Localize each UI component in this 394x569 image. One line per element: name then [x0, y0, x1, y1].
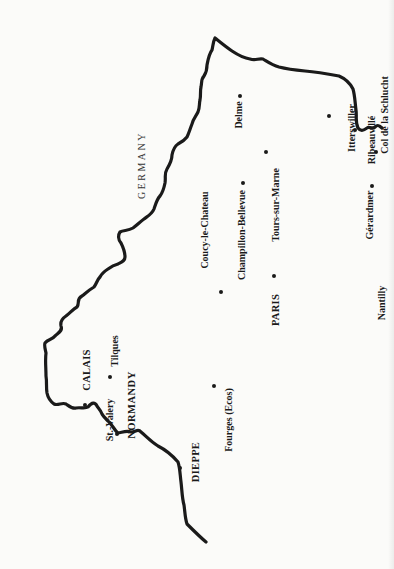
place-label-gerardmer: Gérardmer [365, 191, 375, 240]
place-label-fourges: Fourges (Ecos) [224, 388, 234, 452]
place-dot-coucy-le-chateau [219, 290, 223, 294]
place-label-dieppe: DIEPPE [191, 442, 202, 482]
place-dot-ribeauville [353, 128, 357, 132]
place-dot-fourges [212, 384, 216, 388]
place-dot-paris [272, 274, 276, 278]
place-label-paris: PARIS [271, 294, 282, 326]
place-label-delme: Delme [234, 101, 244, 128]
place-dot-delme [238, 94, 242, 98]
place-dot-tilques [108, 375, 112, 379]
page-edge-shadow [388, 0, 394, 569]
place-label-coucy-le-chateau: Coucy-le-Chateau [200, 191, 210, 268]
map: GERMANY Delme Champillon-Bellevue Tours-… [0, 0, 394, 569]
place-label-st-valery: St.-Valery [105, 399, 115, 442]
place-dot-itterswiller [327, 114, 331, 118]
place-dot-dieppe [178, 466, 182, 470]
place-label-calais: CALAIS [82, 349, 93, 390]
place-dot-calais [83, 403, 87, 407]
place-dot-col-de-la-schlucht [374, 150, 378, 154]
national-border-path [45, 38, 382, 542]
place-label-champillon-bellevue: Champillon-Bellevue [237, 190, 247, 280]
place-label-tours-sur-marne: Tours-sur-Marne [271, 168, 281, 242]
country-label-germany: GERMANY [137, 131, 147, 199]
place-dot-champillon-bellevue [241, 181, 245, 185]
place-dot-tours-sur-marne [264, 150, 268, 154]
place-label-ribeauville: Ribeauvillé [367, 116, 377, 164]
region-label-normandy: NORMANDY [127, 371, 138, 439]
place-label-nantilly: Nantilly [377, 286, 387, 320]
place-label-tilques: Tilques [110, 335, 120, 367]
place-dot-st-valery [115, 432, 119, 436]
border-line [0, 0, 394, 569]
place-dot-gerardmer [370, 184, 374, 188]
